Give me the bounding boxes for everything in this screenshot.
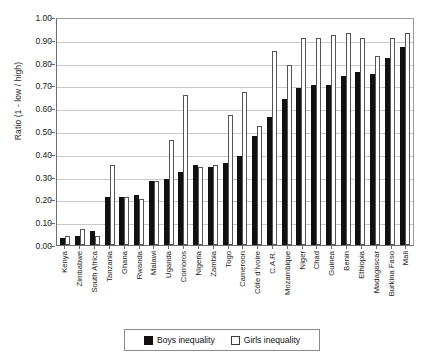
bar — [405, 33, 410, 245]
bar — [346, 33, 351, 245]
x-axis-tick-mark — [272, 246, 273, 249]
x-axis-tick: Chad — [309, 249, 324, 321]
x-axis-tick-mark — [257, 246, 258, 249]
plot-area — [56, 18, 414, 246]
x-axis-tick: Mozambique — [279, 249, 294, 321]
y-axis-tick-mark — [50, 200, 55, 201]
bar — [213, 165, 218, 245]
bar — [154, 181, 159, 245]
x-axis-tick-label: Rwanda — [134, 251, 143, 279]
x-axis-tick-labels: KenyaZimbabweSouth AfricaTanzaniaGhanaRw… — [56, 249, 414, 321]
x-axis-tick-label: Benin — [342, 251, 351, 271]
x-axis-tick-label: Tanzania — [104, 251, 113, 282]
x-axis-tick-label: Niger — [297, 251, 306, 269]
y-axis-tick-label: 0.10 — [18, 218, 52, 228]
bar-chart: Ratio (1 - low / high) 1.000.900.800.700… — [0, 0, 443, 362]
bar-group — [397, 19, 412, 245]
chart-legend: Boys inequalityGirls inequality — [124, 329, 320, 351]
bar-group — [368, 19, 383, 245]
y-axis-tick-mark — [50, 223, 55, 224]
bar-group — [117, 19, 132, 245]
x-axis-tick: South Africa — [87, 249, 102, 321]
bar-group — [294, 19, 309, 245]
bar — [257, 126, 262, 245]
bar-group — [235, 19, 250, 245]
y-axis-tick-mark — [50, 41, 55, 42]
bar — [242, 92, 247, 245]
bar-group — [338, 19, 353, 245]
bar-group — [383, 19, 398, 245]
y-axis-tick-mark — [50, 18, 55, 19]
bar-group — [279, 19, 294, 245]
x-axis-tick: Ethiopia — [354, 249, 369, 321]
legend-item: Girls inequality — [231, 335, 300, 345]
x-axis-tick-label: Kenya — [60, 251, 69, 273]
x-axis-tick-label: South Africa — [90, 251, 99, 293]
x-axis-tick: Niger — [294, 249, 309, 321]
x-axis-tick-mark — [346, 246, 347, 249]
x-axis-tick-label: Chad — [312, 251, 321, 269]
x-axis-tick-mark — [331, 246, 332, 249]
x-axis-tick: Ghana — [116, 249, 131, 321]
bar — [183, 95, 188, 245]
bar-group — [353, 19, 368, 245]
legend-item: Boys inequality — [144, 335, 215, 345]
bar-group — [220, 19, 235, 245]
y-axis-tick-label: 1.00 — [18, 13, 52, 23]
y-axis-tick-mark — [50, 109, 55, 110]
bar — [198, 167, 203, 245]
x-axis-tick: C.A.R. — [265, 249, 280, 321]
legend-label: Girls inequality — [244, 335, 300, 345]
bar-group — [58, 19, 73, 245]
x-axis-tick: Côte d'Ivoire — [250, 249, 265, 321]
x-axis-tick-mark — [213, 246, 214, 249]
bar-group — [147, 19, 162, 245]
bar — [331, 35, 336, 245]
x-axis-tick-mark — [168, 246, 169, 249]
bar — [80, 229, 85, 245]
bar — [124, 197, 129, 245]
y-axis-tick-mark — [50, 155, 55, 156]
bar-group — [88, 19, 103, 245]
x-axis-tick-mark — [94, 246, 95, 249]
x-axis-tick-label: Burkina Faso — [386, 251, 395, 296]
x-axis-tick-mark — [391, 246, 392, 249]
x-axis-tick: Nigeria — [190, 249, 205, 321]
x-axis-tick: Zimbabwe — [72, 249, 87, 321]
x-axis-tick-mark — [124, 246, 125, 249]
y-axis-tick-label: 0.20 — [18, 195, 52, 205]
x-axis-tick-label: Côte d'Ivoire — [253, 251, 262, 294]
x-axis-tick-label: Mozambique — [282, 251, 291, 295]
x-axis-tick-label: Ethiopia — [356, 251, 365, 279]
bar-group — [324, 19, 339, 245]
x-axis-tick-mark — [376, 246, 377, 249]
bar — [375, 56, 380, 245]
x-axis-tick-mark — [79, 246, 80, 249]
x-axis-tick-mark — [183, 246, 184, 249]
bar-group — [161, 19, 176, 245]
x-axis-tick: Guinea — [324, 249, 339, 321]
y-axis-tick-label: 0.70 — [18, 81, 52, 91]
x-axis-tick-mark — [153, 246, 154, 249]
bar-group — [206, 19, 221, 245]
x-axis-tick-mark — [242, 246, 243, 249]
x-axis-tick-label: Zambia — [208, 251, 217, 277]
x-axis-tick-mark — [361, 246, 362, 249]
x-axis-tick: Tanzania — [101, 249, 116, 321]
bar-group — [102, 19, 117, 245]
x-axis-tick-mark — [302, 246, 303, 249]
x-axis-tick-mark — [405, 246, 406, 249]
bar — [95, 236, 100, 245]
x-axis-tick-label: Comoros — [179, 251, 188, 282]
x-axis-tick: Madagascar — [368, 249, 383, 321]
bar — [110, 165, 115, 245]
x-axis-tick: Togo — [220, 249, 235, 321]
y-axis-tick-label: 0.40 — [18, 150, 52, 160]
y-axis-tick-mark — [50, 132, 55, 133]
x-axis-tick-mark — [316, 246, 317, 249]
x-axis-tick-label: Zimbabwe — [75, 251, 84, 286]
x-axis-tick-mark — [198, 246, 199, 249]
x-axis-tick: Rwanda — [131, 249, 146, 321]
bar — [272, 51, 277, 245]
legend-swatch-boys-icon — [144, 336, 153, 345]
